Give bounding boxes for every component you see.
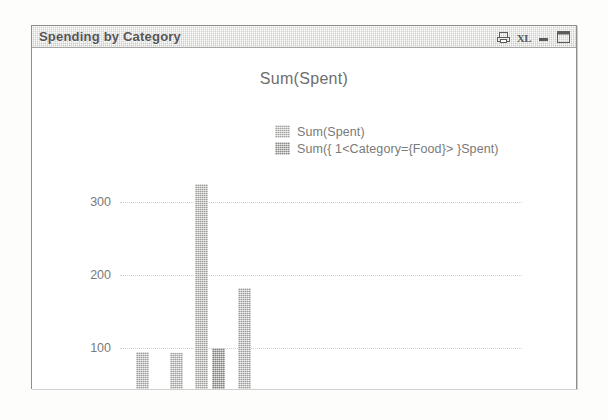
legend-swatch-icon — [275, 125, 290, 138]
chart-title: Sum(Spent) — [32, 70, 576, 88]
y-axis-tick-label: 100 — [90, 341, 111, 355]
bar[interactable] — [170, 353, 183, 389]
gridline — [120, 202, 522, 204]
bar[interactable] — [238, 288, 251, 389]
titlebar-controls: XL — [497, 28, 570, 46]
plot-area[interactable]: =Month(Date) 0100200300JanFebMarApr — [120, 173, 522, 389]
legend-swatch-icon — [275, 142, 290, 155]
legend-item-label: Sum({ 1<Category={Food}> }Spent) — [297, 142, 499, 156]
bar[interactable] — [195, 184, 208, 389]
gridline — [120, 275, 522, 277]
maximize-button[interactable] — [557, 31, 570, 43]
gridline — [120, 348, 522, 350]
bar[interactable] — [212, 348, 225, 389]
legend-item-label: Sum(Spent) — [297, 125, 365, 139]
chart-window: Spending by Category XL — [31, 25, 577, 389]
excel-export-icon[interactable]: XL — [517, 29, 531, 45]
chart-legend: Sum(Spent) Sum({ 1<Category={Food}> }Spe… — [275, 124, 499, 156]
bar[interactable] — [136, 352, 149, 389]
window-titlebar[interactable]: Spending by Category XL — [32, 26, 576, 48]
chart-area[interactable]: Sum(Spent) Sum(Spent) Sum({ 1<Category={… — [32, 48, 576, 389]
window-title: Spending by Category — [39, 29, 181, 44]
print-icon[interactable] — [497, 32, 510, 43]
excel-export-label: XL — [517, 32, 531, 44]
minimize-button[interactable] — [538, 32, 550, 43]
legend-item[interactable]: Sum({ 1<Category={Food}> }Spent) — [275, 141, 499, 156]
legend-item[interactable]: Sum(Spent) — [275, 124, 499, 139]
y-axis-tick-label: 200 — [90, 268, 111, 282]
y-axis-tick-label: 300 — [90, 195, 111, 209]
page-background: Spending by Category XL — [0, 0, 608, 420]
